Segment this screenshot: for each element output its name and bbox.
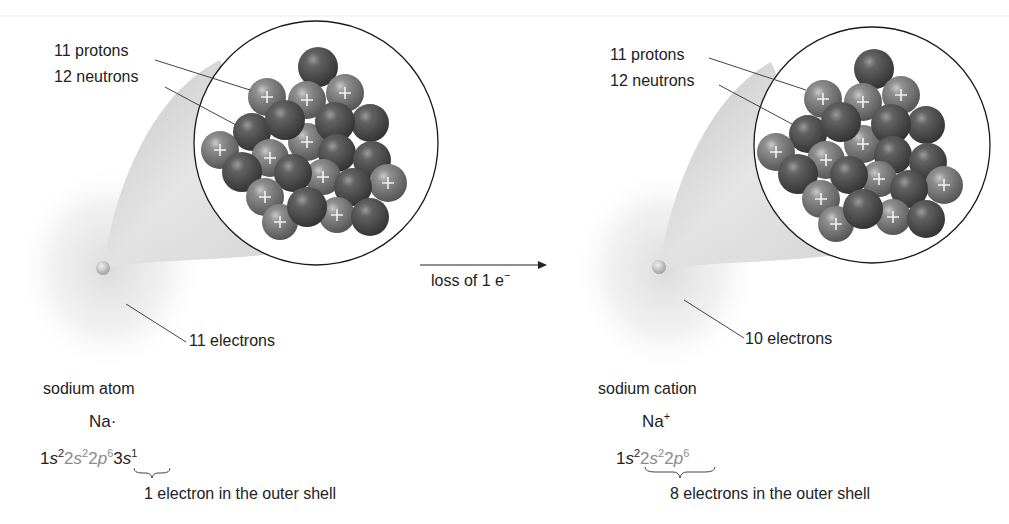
right-species-name: sodium cation — [598, 380, 697, 398]
right-neutrons-label: 12 neutrons — [610, 72, 695, 90]
brace-left — [134, 468, 170, 478]
nucleus-dot — [96, 261, 110, 275]
arrow-label: loss of 1 e− — [431, 272, 510, 290]
left-protons-label: 11 protons — [54, 42, 128, 60]
left-atom — [15, 21, 438, 478]
left-brace-note: 1 electron in the outer shell — [144, 485, 336, 503]
right-electron-config: 1s22s22p6 — [616, 449, 689, 469]
left-symbol: Na· — [89, 412, 116, 432]
right-protons-label: 11 protons — [610, 46, 684, 64]
left-neutrons-label: 12 neutrons — [54, 68, 139, 86]
reaction-arrow — [420, 261, 547, 269]
right-brace-note: 8 electrons in the outer shell — [670, 485, 870, 503]
right-electrons-label: 10 electrons — [745, 330, 832, 348]
nucleus-dot — [652, 260, 666, 274]
left-electrons-label: 11 electrons — [189, 332, 275, 350]
left-electron-config: 1s22s22p63s1 — [40, 449, 137, 469]
diagram-figure — [0, 0, 1009, 524]
right-symbol: Na+ — [642, 412, 670, 432]
left-species-name: sodium atom — [43, 380, 135, 398]
